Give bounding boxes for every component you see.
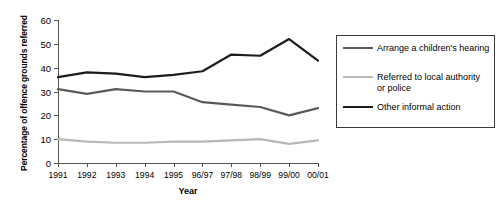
- x-tick-label: 1991: [48, 170, 67, 180]
- y-tick-label: 40: [40, 62, 51, 73]
- series-line: [58, 39, 318, 77]
- x-tick: [231, 163, 232, 167]
- y-tick-label: 30: [40, 86, 51, 97]
- legend-label-arrange-hearing: Arrange a children's hearing: [377, 43, 489, 54]
- x-tick-label: 98/99: [249, 170, 271, 180]
- x-tick-label: 97/98: [221, 170, 243, 180]
- legend-swatch-other-informal-action: [343, 106, 373, 108]
- x-tick: [174, 163, 175, 167]
- x-tick-label: 99/00: [278, 170, 300, 180]
- x-tick-label: 96/97: [192, 170, 214, 180]
- legend-swatch-referred-local-authority: [343, 76, 373, 78]
- x-tick: [145, 163, 146, 167]
- legend-label-other-informal-action: Other informal action: [377, 102, 461, 113]
- legend-item-other-informal-action: Other informal action: [343, 102, 490, 113]
- series-line: [58, 139, 318, 144]
- x-axis-title: Year: [58, 186, 318, 196]
- chart-legend: Arrange a children's hearing Referred to…: [336, 35, 495, 128]
- legend-swatch-arrange-hearing: [343, 47, 373, 49]
- series-lines: [58, 20, 318, 163]
- x-axis-line: [58, 163, 318, 164]
- line-chart: Percentage of offence grounds referred 0…: [0, 0, 502, 208]
- x-tick-label: 00/01: [307, 170, 329, 180]
- x-tick: [116, 163, 117, 167]
- y-tick-label: 0: [46, 158, 51, 169]
- x-tick: [289, 163, 290, 167]
- plot-area: 0102030405060 1991199219931994199596/979…: [58, 20, 318, 163]
- y-tick-label: 20: [40, 110, 51, 121]
- y-tick-label: 50: [40, 38, 51, 49]
- x-tick: [87, 163, 88, 167]
- x-tick-label: 1995: [164, 170, 183, 180]
- x-tick-label: 1993: [106, 170, 125, 180]
- x-tick: [202, 163, 203, 167]
- y-tick-label: 10: [40, 134, 51, 145]
- x-tick: [318, 163, 319, 167]
- legend-item-arrange-hearing: Arrange a children's hearing: [343, 43, 490, 54]
- legend-item-referred-local-authority: Referred to local authority or police: [343, 72, 490, 93]
- y-axis-title: Percentage of offence grounds referred: [19, 3, 29, 183]
- x-tick: [58, 163, 59, 167]
- y-tick-label: 60: [40, 15, 51, 26]
- x-tick: [260, 163, 261, 167]
- x-tick-label: 1992: [77, 170, 96, 180]
- x-tick-label: 1994: [135, 170, 154, 180]
- legend-label-referred-local-authority: Referred to local authority or police: [377, 72, 490, 93]
- series-line: [58, 89, 318, 115]
